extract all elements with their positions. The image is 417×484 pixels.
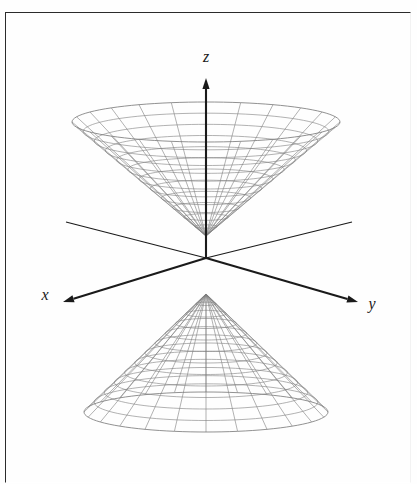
axis-label-z: z	[202, 48, 210, 65]
coordinate-axes	[63, 78, 358, 302]
figure-root: z x y	[0, 0, 417, 484]
lower-nappe-wireframe	[84, 294, 328, 432]
axis-label-x: x	[40, 286, 48, 303]
cone-wireframe-plot: z x y	[0, 0, 417, 484]
axis-label-y: y	[366, 295, 376, 313]
